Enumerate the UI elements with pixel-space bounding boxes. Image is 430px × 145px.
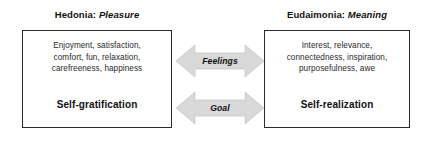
connector-goal-label: Goal — [176, 103, 264, 113]
attribute-line: connectedness, inspiration, — [271, 52, 403, 64]
attribute-line: Interest, relevance, — [271, 40, 403, 52]
heading-eudaimonia: Eudaimonia: Meaning — [264, 9, 410, 20]
attribute-list-hedonia: Enjoyment, satisfaction, comfort, fun, r… — [29, 40, 165, 75]
connector-feelings: Feelings — [176, 42, 264, 80]
connector-goal: Goal — [176, 88, 264, 128]
heading-eudaimonia-term: Eudaimonia: — [287, 9, 348, 20]
heading-eudaimonia-gloss: Meaning — [348, 9, 387, 20]
heading-hedonia-term: Hedonia: — [55, 9, 99, 20]
attribute-line: comfort, fun, relaxation, — [29, 52, 165, 64]
concept-box-eudaimonia: Interest, relevance, connectedness, insp… — [264, 30, 410, 128]
connector-feelings-label: Feelings — [176, 56, 264, 66]
attribute-line: purposefulness, awe — [271, 63, 403, 75]
heading-hedonia-gloss: Pleasure — [99, 9, 139, 20]
outcome-hedonia: Self-gratification — [23, 99, 171, 110]
attribute-line: Enjoyment, satisfaction, — [29, 40, 165, 52]
attribute-line: carefreeness, happiness — [29, 63, 165, 75]
concept-box-hedonia: Enjoyment, satisfaction, comfort, fun, r… — [22, 30, 172, 128]
attribute-list-eudaimonia: Interest, relevance, connectedness, insp… — [271, 40, 403, 75]
outcome-eudaimonia: Self-realization — [265, 99, 409, 110]
heading-hedonia: Hedonia: Pleasure — [22, 9, 172, 20]
hedonia-eudaimonia-diagram: Hedonia: Pleasure Eudaimonia: Meaning En… — [0, 0, 430, 145]
